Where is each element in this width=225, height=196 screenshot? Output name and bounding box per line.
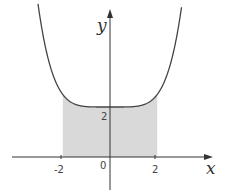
function-graph: x y 0 -2 2 2 <box>0 0 225 196</box>
y-axis-label: y <box>96 15 107 35</box>
x-tick-label-neg2: -2 <box>54 164 64 175</box>
y-tick-label-2: 2 <box>101 111 107 122</box>
y-axis-arrow-icon <box>107 9 113 18</box>
x-tick-label-pos2: 2 <box>152 164 158 175</box>
origin-label: 0 <box>100 160 106 171</box>
x-axis-label: x <box>206 158 216 178</box>
